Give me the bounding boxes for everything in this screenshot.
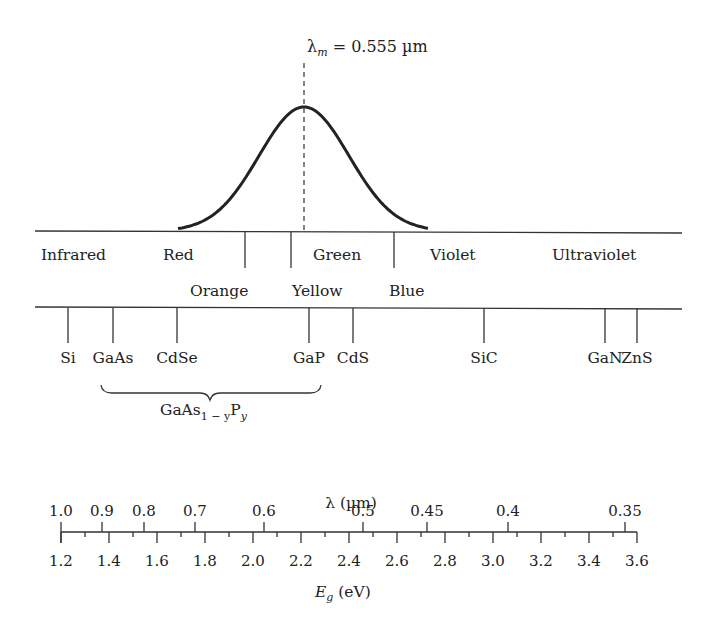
wavelength-tick-label: 0.5 (351, 502, 375, 520)
energy-axis-title: Eg (eV) (314, 583, 371, 604)
material-label-cdse: CdSe (156, 349, 198, 367)
wavelength-tick-label: 0.45 (410, 502, 443, 520)
energy-tick-label: 1.2 (49, 552, 73, 570)
alloy-label: GaAs1 − yPy (160, 401, 248, 423)
peak-label: λm = 0.555 µm (307, 37, 428, 59)
energy-tick-label: 3.4 (577, 552, 601, 570)
wavelength-tick-label: 0.35 (608, 502, 641, 520)
wavelength-tick-label: 0.6 (252, 502, 276, 520)
energy-tick-label: 2.4 (337, 552, 361, 570)
spectrum-top-line (35, 231, 682, 233)
material-label-si: Si (60, 349, 76, 367)
band-label-blue: Blue (389, 282, 425, 300)
energy-tick-label: 2.8 (433, 552, 457, 570)
band-label-orange: Orange (190, 282, 248, 300)
band-label-red: Red (163, 246, 194, 264)
sensitivity-curve-group: λm = 0.555 µm (178, 37, 428, 231)
wavelength-tick-label: 0.7 (183, 502, 207, 520)
material-label-zns: ZnS (621, 349, 652, 367)
wavelength-tick-label: 0.8 (132, 502, 156, 520)
material-ticks: SiGaAsCdSeGaPCdSSiCGaNZnS (60, 308, 652, 367)
band-labels-top: InfraredRedGreenVioletUltraviolet (41, 246, 637, 264)
energy-tick-label: 3.2 (529, 552, 553, 570)
energy-tick-label: 1.8 (193, 552, 217, 570)
alloy-brace (101, 385, 321, 400)
peak-label-symbol: λ (307, 37, 317, 56)
peak-label-value: = 0.555 µm (328, 37, 428, 56)
energy-tick-label: 1.4 (97, 552, 121, 570)
band-label-green: Green (313, 246, 361, 264)
wavelength-energy-axis: λ (µm) 1.00.90.80.70.60.50.450.40.35 1.2… (49, 494, 649, 604)
wavelength-tick-label: 0.4 (496, 502, 520, 520)
energy-ticks: 1.21.41.61.82.02.22.42.62.83.03.23.43.6 (49, 532, 649, 570)
material-label-sic: SiC (470, 349, 497, 367)
band-label-yellow: Yellow (291, 282, 343, 300)
energy-tick-label: 3.0 (481, 552, 505, 570)
band-label-infrared: Infrared (41, 246, 106, 264)
material-label-gap: GaP (293, 349, 325, 367)
band-label-violet: Violet (429, 246, 476, 264)
energy-tick-label: 1.6 (145, 552, 169, 570)
wavelength-tick-label: 0.9 (90, 502, 114, 520)
band-label-ultraviolet: Ultraviolet (552, 246, 637, 264)
eye-sensitivity-curve (178, 107, 428, 229)
energy-tick-label: 3.6 (625, 552, 649, 570)
energy-tick-label: 2.2 (289, 552, 313, 570)
energy-tick-label: 2.0 (241, 552, 265, 570)
band-labels-bottom: OrangeYellowBlue (190, 282, 425, 300)
material-label-gan: GaN (587, 349, 622, 367)
wavelength-tick-label: 1.0 (49, 502, 73, 520)
led-spectrum-diagram: λm = 0.555 µm InfraredRedGreenVioletUltr… (0, 0, 709, 636)
energy-tick-label: 2.6 (385, 552, 409, 570)
peak-label-sub: m (317, 46, 327, 59)
material-label-gaas: GaAs (93, 349, 134, 367)
material-label-cds: CdS (337, 349, 369, 367)
color-spectrum-band: InfraredRedGreenVioletUltraviolet Orange… (35, 231, 682, 300)
semiconductor-materials: SiGaAsCdSeGaPCdSSiCGaNZnS GaAs1 − yPy (35, 307, 682, 423)
materials-line (35, 307, 682, 309)
